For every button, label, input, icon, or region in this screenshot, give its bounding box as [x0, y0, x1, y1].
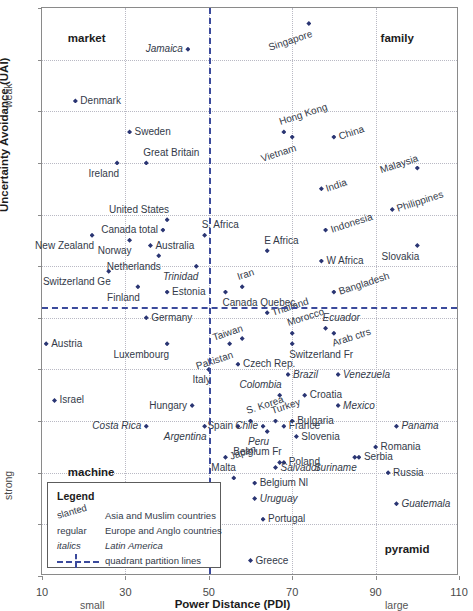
- data-point-label: Iran: [236, 267, 255, 282]
- data-point-label: Portugal: [268, 514, 305, 524]
- diamond-marker-icon: [265, 429, 270, 434]
- legend-key: regular: [57, 525, 105, 536]
- diamond-marker-icon: [331, 135, 336, 140]
- legend-row: italicsLatin America: [57, 538, 211, 553]
- data-point-label: Germany: [151, 313, 192, 323]
- data-point-label: Trinidad: [163, 272, 198, 282]
- data-point-label: India: [325, 177, 349, 193]
- diamond-marker-icon: [331, 331, 336, 336]
- data-point-label: France: [289, 421, 320, 431]
- diamond-marker-icon: [144, 424, 149, 429]
- diamond-marker-icon: [190, 403, 195, 408]
- legend: Legend slantedAsia and Muslim countriesr…: [47, 482, 221, 568]
- diamond-marker-icon: [252, 496, 257, 501]
- x-tick-label: 10: [22, 586, 62, 598]
- diamond-marker-icon: [319, 186, 324, 191]
- plot-area: marketfamilymachinepyramid JamaicaSingap…: [41, 7, 458, 575]
- legend-row: regularEurope and Anglo countries: [57, 523, 211, 538]
- data-point-label: Taiwan: [211, 324, 244, 343]
- diamond-marker-icon: [73, 98, 78, 103]
- diamond-marker-icon: [52, 398, 57, 403]
- data-point-label: Uruguay: [260, 494, 298, 504]
- diamond-marker-icon: [336, 372, 341, 377]
- legend-rows: slantedAsia and Muslim countriesregularE…: [57, 508, 211, 568]
- diamond-marker-icon: [306, 21, 311, 26]
- diamond-marker-icon: [373, 444, 378, 449]
- diamond-marker-icon: [265, 310, 270, 315]
- data-point-label: Russia: [393, 468, 424, 478]
- diamond-marker-icon: [302, 393, 307, 398]
- diamond-marker-icon: [252, 481, 257, 486]
- diamond-marker-icon: [127, 238, 132, 243]
- quadrant-label-market: market: [68, 32, 106, 44]
- diamond-marker-icon: [386, 470, 391, 475]
- diamond-marker-icon: [273, 419, 278, 424]
- gridline-horizontal: [42, 60, 457, 61]
- data-point-label: Denmark: [80, 96, 121, 106]
- gridline-vertical: [376, 8, 377, 574]
- legend-title: Legend: [57, 490, 211, 502]
- data-point-label: Jamaica: [146, 44, 183, 54]
- diamond-marker-icon: [144, 315, 149, 320]
- data-point-label: Salvador: [281, 463, 320, 473]
- data-point-label: S. Africa: [202, 220, 239, 230]
- x-tick-mark: [292, 576, 293, 580]
- data-point-label: China: [337, 124, 365, 142]
- diamond-marker-icon: [156, 253, 161, 258]
- diamond-marker-icon: [223, 290, 228, 295]
- diamond-marker-icon: [248, 558, 253, 563]
- x-tick-mark: [125, 576, 126, 580]
- data-point-label: Ireland: [88, 169, 119, 179]
- y-tick-mark: [38, 8, 42, 9]
- data-point-label: Malta: [211, 463, 235, 473]
- diamond-marker-icon: [273, 465, 278, 470]
- diamond-marker-icon: [231, 475, 236, 480]
- y-tick-mark: [38, 318, 42, 319]
- y-tick-mark: [38, 163, 42, 164]
- diamond-marker-icon: [240, 284, 245, 289]
- x-tick-mark: [459, 576, 460, 580]
- data-point-label: Luxembourg: [114, 350, 170, 360]
- gridline-vertical: [292, 8, 293, 574]
- diamond-marker-icon: [235, 362, 240, 367]
- data-point-label: Austria: [51, 339, 82, 349]
- data-point-label: Venezuela: [343, 370, 390, 380]
- y-tick-mark: [38, 60, 42, 61]
- diamond-marker-icon: [165, 217, 170, 222]
- gridline-horizontal: [42, 369, 457, 370]
- diamond-marker-icon: [319, 259, 324, 264]
- data-point-label: Bangladesh: [337, 271, 390, 297]
- diamond-marker-icon: [294, 434, 299, 439]
- data-point-label: Hungary: [149, 401, 187, 411]
- x-axis-low-label: small: [80, 599, 105, 611]
- y-tick-mark: [38, 524, 42, 525]
- x-tick-label: 50: [189, 586, 229, 598]
- data-point-label: Arab ctrs: [331, 327, 372, 349]
- diamond-marker-icon: [265, 248, 270, 253]
- diamond-marker-icon: [165, 341, 170, 346]
- data-point-label: Switzerland Fr: [289, 350, 353, 360]
- diamond-marker-icon: [240, 336, 245, 341]
- diamond-marker-icon: [202, 233, 207, 238]
- diamond-marker-icon: [290, 135, 295, 140]
- data-point-label: Slovenia: [301, 432, 339, 442]
- legend-key: italics: [57, 540, 105, 551]
- diamond-marker-icon: [281, 129, 286, 134]
- y-tick-mark: [38, 266, 42, 267]
- y-axis-low-label: weak: [2, 83, 14, 108]
- diamond-marker-icon: [331, 290, 336, 295]
- diamond-marker-icon: [290, 341, 295, 346]
- diamond-marker-icon: [90, 233, 95, 238]
- diamond-marker-icon: [165, 290, 170, 295]
- y-tick-mark: [38, 473, 42, 474]
- data-point-label: New Zealand: [35, 241, 94, 251]
- legend-partition-line-swatch: [57, 555, 105, 567]
- diamond-marker-icon: [148, 243, 153, 248]
- data-point-label: Norway: [98, 246, 132, 256]
- data-point-label: W Africa: [326, 256, 363, 266]
- diamond-marker-icon: [185, 47, 190, 52]
- data-point-label: Australia: [155, 241, 194, 251]
- diamond-marker-icon: [160, 228, 165, 233]
- data-point-label: Brazil: [293, 370, 318, 380]
